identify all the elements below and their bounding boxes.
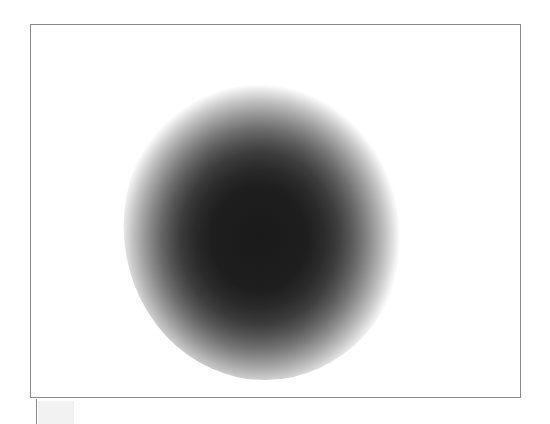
figure-title: [0, 0, 1, 1]
radial-blob: [31, 25, 520, 397]
corner-tick-mark: [36, 399, 37, 424]
halftone-dither-overlay: [31, 25, 520, 397]
chart-description: Single circularly symmetric dark blob (r…: [0, 0, 1, 1]
plot-panel: [30, 24, 521, 398]
radial-blob-svg: [31, 25, 520, 397]
corner-swatch: [38, 401, 74, 424]
figure-root: Single circularly symmetric dark blob (r…: [0, 0, 550, 424]
